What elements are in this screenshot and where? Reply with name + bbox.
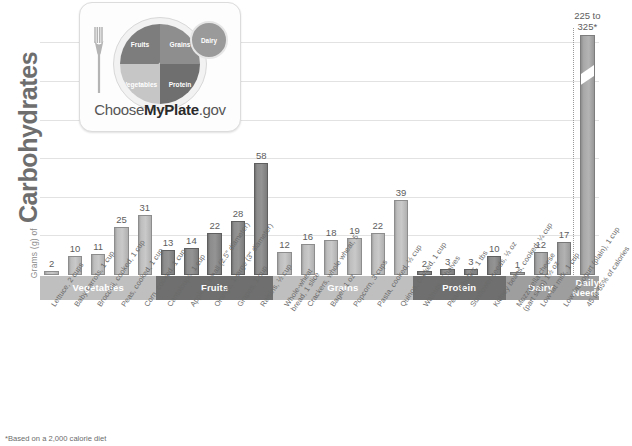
daily-needs-value-line1: 225 to [557, 10, 617, 21]
bar [44, 271, 58, 275]
plate-dairy-circle: Dairy [190, 21, 228, 59]
footnote: *Based on a 2,000 calorie diet [5, 434, 106, 443]
brand-choose: Choose [94, 101, 144, 118]
myplate-wordmark: ChooseMyPlate.gov [80, 101, 240, 118]
myplate-logo: Fruits Vegetables Grains Protein Dairy C… [79, 2, 241, 132]
plate-protein-section: Protein [160, 64, 200, 104]
bar-value-label: 22 [200, 220, 230, 231]
y-axis-units: Grams (g) of [29, 228, 39, 278]
fork-icon [94, 27, 104, 93]
bar-daily-needs [580, 35, 595, 275]
bar-value-label: 28 [223, 208, 253, 219]
bar-value-label: 22 [363, 220, 393, 231]
daily-needs-value-line2: 325* [557, 21, 617, 32]
bar-value-label: 31 [130, 202, 160, 213]
bar [254, 163, 268, 275]
bar-value-label: 14 [176, 235, 206, 246]
bar-value-label: 58 [246, 150, 276, 161]
y-axis-label: Carbohydrates [14, 52, 43, 223]
gridline [40, 197, 599, 198]
gridline [40, 158, 599, 159]
plate-vegetables-section: Vegetables [120, 64, 160, 104]
brand-myplate: MyPlate [144, 101, 199, 118]
x-axis-tick-labels: Lettuce, 2 cupsBaby carrots, 1 cupBrocco… [0, 300, 599, 430]
daily-needs-value-label: 225 to325* [557, 10, 617, 32]
daily-needs-divider [573, 28, 574, 275]
brand-gov: .gov [199, 101, 226, 118]
bar-value-label: 2 [37, 258, 67, 269]
axis-break-slash [580, 45, 595, 87]
bar-value-label: 39 [386, 187, 416, 198]
bar-value-label: 25 [107, 214, 137, 225]
bar-value-label: 17 [549, 229, 579, 240]
plate-fruits-section: Fruits [120, 24, 160, 64]
